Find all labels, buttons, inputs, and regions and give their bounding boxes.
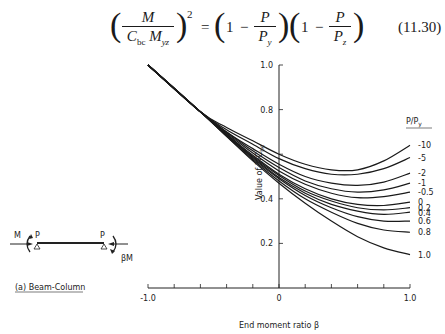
chart: M P P βM (a) Beam-Column -1.001.00.20.40… — [0, 0, 445, 334]
x-tick-label: 1.0 — [404, 294, 417, 303]
legend-label: -2 — [418, 169, 426, 178]
support-right — [101, 244, 107, 249]
legend-label: 1.0 — [418, 251, 431, 260]
diagram-caption: (a) Beam-Column — [15, 283, 85, 292]
y-tick-label: 0.2 — [260, 239, 273, 248]
load-left-label: P — [35, 231, 40, 240]
legend-label: -5 — [418, 154, 426, 163]
legend-label: -10 — [418, 141, 431, 150]
y-tick-label: 0.8 — [260, 106, 273, 115]
y-tick-label: 1.0 — [260, 61, 273, 70]
x-tick-label: 0 — [276, 294, 281, 303]
moment-right-label: βM — [121, 254, 133, 263]
legend-label: 0.8 — [418, 228, 431, 237]
arrowhead-right — [108, 242, 114, 246]
legend: -10-5-2-1-0.500.20.40.60.81.0 — [418, 141, 434, 259]
y-axis-label: Value of 1/Cbc — [255, 145, 265, 200]
legend-label: -0.5 — [418, 188, 434, 197]
arrowhead-left — [27, 242, 33, 246]
legend-label: 0.6 — [418, 217, 431, 226]
support-left — [34, 244, 40, 249]
legend-title: P/Py — [406, 117, 422, 128]
legend-label: -1 — [418, 179, 426, 188]
load-right-label: P — [100, 231, 105, 240]
x-tick-label: -1.0 — [140, 294, 156, 303]
x-axis-label: End moment ratio β — [239, 321, 319, 330]
moment-left-label: M — [14, 231, 21, 240]
beam-column-diagram: M P P βM (a) Beam-Column — [10, 231, 133, 292]
